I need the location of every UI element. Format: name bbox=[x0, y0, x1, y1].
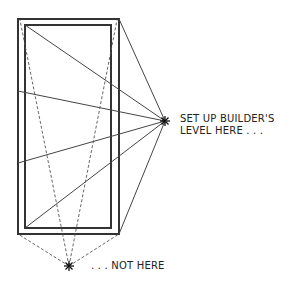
outer-frame bbox=[18, 19, 119, 234]
good-position-label: SET UP BUILDER'S LEVEL HERE . . . bbox=[180, 113, 274, 137]
wrong-position-star-icon bbox=[64, 261, 74, 271]
window-frame bbox=[18, 19, 119, 234]
good-position-line-2: LEVEL HERE . . . bbox=[180, 125, 274, 137]
inner-frame bbox=[25, 25, 111, 228]
level-position-star-icon bbox=[160, 116, 170, 126]
bad-position-label: . . . NOT HERE bbox=[91, 260, 165, 272]
good-position-line-1: SET UP BUILDER'S bbox=[180, 113, 274, 125]
sight-lines-good bbox=[18, 19, 165, 234]
window-frame-diagram bbox=[0, 0, 296, 289]
sight-lines-bad bbox=[18, 20, 119, 266]
